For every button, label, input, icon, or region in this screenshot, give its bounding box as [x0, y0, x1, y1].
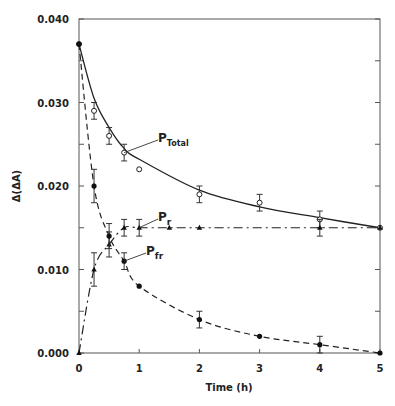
open-circle-marker	[137, 167, 142, 172]
x-tick-label: 4	[316, 363, 323, 374]
x-tick-label: 3	[256, 363, 263, 374]
filled-circle-marker	[91, 183, 96, 188]
y-tick-label: 0.040	[37, 14, 69, 25]
x-tick-label: 0	[76, 363, 83, 374]
open-circle-marker	[257, 200, 262, 205]
y-tick-label: 0.030	[37, 98, 69, 109]
filled-circle-marker	[377, 350, 382, 355]
series-p-r	[76, 219, 382, 355]
x-tick-label: 5	[377, 363, 384, 374]
series-line	[79, 44, 380, 353]
filled-circle-marker	[137, 284, 142, 289]
x-axis-title: Time (h)	[205, 382, 252, 393]
y-tick-label: 0.010	[37, 265, 69, 276]
y-tick-label: 0.020	[37, 181, 69, 192]
series-label-p-fr: Pfr	[146, 244, 164, 261]
open-circle-marker	[197, 192, 202, 197]
label-leader-line	[124, 253, 146, 261]
series-line	[79, 227, 380, 353]
y-tick-label: 0.000	[37, 348, 69, 359]
series-label-p-total: PTotal	[158, 131, 189, 148]
filled-circle-marker	[197, 317, 202, 322]
filled-circle-marker	[317, 342, 322, 347]
chart: 0.0000.0100.0200.0300.040 012345 PTotalP…	[0, 0, 395, 406]
y-axis-title: Δ(ΔA)	[11, 170, 22, 202]
series-label-p-r: Pr	[158, 210, 172, 227]
series-line	[79, 44, 380, 228]
label-leader-line	[124, 140, 158, 153]
plot-frame	[79, 19, 380, 353]
open-circle-marker	[92, 108, 97, 113]
y-axis-ticks: 0.0000.0100.0200.0300.040	[37, 14, 380, 359]
triangle-marker	[91, 267, 96, 272]
series-layer	[76, 41, 382, 355]
series-p-total	[77, 42, 383, 231]
series-labels: PTotalPrPfr	[124, 131, 189, 261]
x-tick-label: 2	[196, 363, 203, 374]
open-circle-marker	[107, 133, 112, 138]
filled-circle-marker	[107, 234, 112, 239]
x-tick-label: 1	[136, 363, 143, 374]
label-leader-line	[139, 219, 158, 228]
series-p-fr	[76, 41, 382, 355]
filled-circle-marker	[257, 334, 262, 339]
filled-circle-marker	[76, 41, 81, 46]
